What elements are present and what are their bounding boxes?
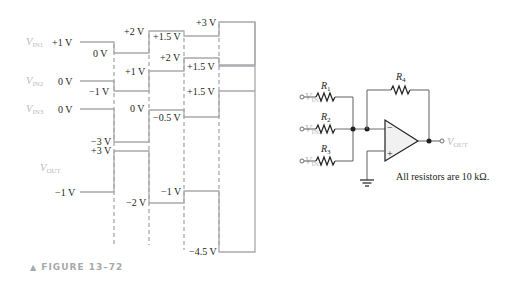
- circuit-vout-label: VOUT: [447, 136, 469, 149]
- vin1-level-5: +3 V: [196, 17, 217, 28]
- vin3-level-5: +1.5 V: [187, 86, 215, 97]
- vout-level-1: −1 V: [55, 187, 76, 198]
- waveform-vin1: VIN1 +1 V 0 V +2 V +1.5 V +3 V: [26, 17, 255, 65]
- vin2-terminal: [300, 127, 304, 131]
- waveform-vout: VOUT −1 V +3 V −2 V −1 V −4.5 V: [40, 22, 255, 257]
- vin3-level-1: 0 V: [58, 104, 73, 115]
- vin3-label: VIN3: [26, 103, 44, 116]
- resistor-r4: [391, 86, 410, 94]
- vin2-label: VIN2: [26, 75, 44, 88]
- output-node: [427, 139, 432, 144]
- vin2-level-2: −1 V: [89, 86, 110, 97]
- vin3-level-4: −0.5 V: [153, 112, 181, 123]
- r2-label: R2: [320, 111, 331, 124]
- vin1-label: VIN1: [26, 36, 44, 49]
- inverting-input-label: −: [387, 122, 393, 133]
- r1-label: R1: [320, 80, 331, 93]
- vin1-level-3: +2 V: [124, 26, 145, 37]
- resistor-note: All resistors are 10 kΩ.: [396, 171, 489, 182]
- r4-label: R4: [395, 71, 406, 84]
- vin1-terminal: [300, 95, 304, 99]
- vin2-level-1: 0 V: [58, 76, 73, 87]
- r3-label: R3: [320, 143, 331, 156]
- summing-node: [351, 127, 356, 132]
- vin2-level-4: +2 V: [160, 52, 181, 63]
- waveform-vin3: VIN3 0 V −3 V 0 V −0.5 V +1.5 V: [26, 86, 255, 147]
- vout-level-2: +3 V: [91, 145, 112, 156]
- figure-caption: ▲ FIGURE 13–72: [30, 262, 123, 272]
- summing-amplifier-circuit: VIN1 VIN2 VIN3 R1 R2 R3 R4: [300, 71, 489, 186]
- vin2-level-3: +1 V: [125, 66, 146, 77]
- caption-text: FIGURE 13–72: [41, 262, 123, 272]
- vin1-level-1: +1 V: [52, 37, 73, 48]
- vin1-level-4: +1.5 V: [153, 31, 181, 42]
- vin2-level-5: +1.5 V: [187, 61, 215, 72]
- caption-triangle-icon: ▲: [30, 263, 37, 272]
- vout-level-4: −1 V: [161, 186, 182, 197]
- vout-level-5: −4.5 V: [189, 246, 217, 257]
- vin3-level-3: 0 V: [130, 103, 145, 114]
- noninverting-input-label: +: [387, 148, 393, 159]
- figure-canvas: VIN1 +1 V 0 V +2 V +1.5 V +3 V VIN2 0 V …: [0, 0, 517, 285]
- vout-label: VOUT: [40, 162, 62, 175]
- ground-icon: [360, 180, 374, 186]
- vin1-level-2: 0 V: [93, 48, 108, 59]
- vin3-terminal: [300, 159, 304, 163]
- vout-terminal: [440, 139, 444, 143]
- vout-level-3: −2 V: [126, 197, 147, 208]
- waveform-vin2: VIN2 0 V −1 V +1 V +2 V +1.5 V: [26, 52, 255, 97]
